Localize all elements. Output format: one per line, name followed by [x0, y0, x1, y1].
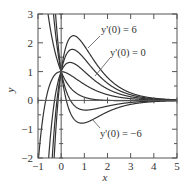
y-tick-label: −1	[21, 123, 33, 135]
y-tick-label: 1	[28, 66, 34, 78]
x-tick-label: 3	[128, 160, 134, 172]
x-tick-label: 0	[58, 160, 64, 172]
x-tick-label: −1	[32, 160, 44, 172]
annotation-bottom: y'(0) = −6	[100, 128, 142, 140]
y-tick-label: −2	[21, 152, 33, 164]
y-tick-label: 2	[28, 37, 34, 49]
y-tick-label: 0	[28, 94, 34, 106]
annotation-mid: y'(0) = 0	[110, 47, 146, 59]
chart: −1012345−2−10123 x y y'(0) = 6 y'(0) = 0…	[0, 0, 188, 185]
y-axis-label: y	[4, 87, 16, 93]
x-tick-label: 1	[82, 160, 88, 172]
annotation-top: y'(0) = 6	[101, 24, 137, 36]
x-tick-label: 4	[151, 160, 157, 172]
x-axis-label: x	[102, 171, 108, 183]
x-tick-label: 5	[174, 160, 180, 172]
y-tick-label: 3	[28, 8, 34, 20]
